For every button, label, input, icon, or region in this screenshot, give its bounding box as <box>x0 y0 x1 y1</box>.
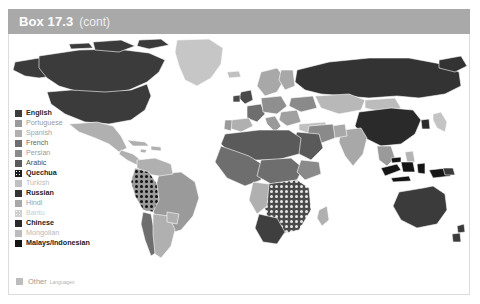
legend-swatch <box>15 190 22 197</box>
box-title: Box 17.3 <box>19 14 73 29</box>
map-legend: EnglishPortugueseSpanishFrenchPersianAra… <box>15 108 135 248</box>
country-indonesia-sulawesi <box>417 163 425 174</box>
legend-other-sublabel: Languages <box>50 279 75 285</box>
legend-swatch <box>15 160 22 167</box>
legend-label: Persian <box>26 149 50 157</box>
legend-swatch <box>15 200 22 207</box>
legend-swatch <box>15 230 22 237</box>
legend-row: Malays/Indonesian <box>15 238 135 248</box>
legend-label: Hindi <box>26 199 42 207</box>
legend-swatch <box>15 140 22 147</box>
legend-row: English <box>15 108 135 118</box>
country-indonesia-borneo <box>401 162 415 172</box>
legend-row: Chinese <box>15 218 135 228</box>
legend-swatch <box>15 110 22 117</box>
legend-row: Mongolian <box>15 228 135 238</box>
legend-label: Arabic <box>26 159 46 167</box>
legend-label: Bantu <box>26 209 45 217</box>
country-ireland <box>233 95 240 102</box>
box-header: Box 17.3 (cont) <box>8 9 470 34</box>
legend-swatch <box>15 120 22 127</box>
country-hispaniola <box>151 146 161 151</box>
legend-other-row: Other Languages <box>16 277 75 286</box>
country-korea <box>421 119 430 129</box>
country-portugal <box>224 120 232 131</box>
legend-row: Bantu <box>15 208 135 218</box>
legend-label: Turkish <box>26 179 49 187</box>
legend-swatch <box>15 170 22 177</box>
legend-other-swatch <box>16 278 23 285</box>
legend-row: Hindi <box>15 198 135 208</box>
legend-swatch <box>15 150 22 157</box>
legend-label: Mongolian <box>26 229 59 237</box>
legend-swatch <box>15 130 22 137</box>
country-new-zealand-s <box>452 233 461 242</box>
legend-label: Russian <box>26 189 54 197</box>
legend-row: Turkish <box>15 178 135 188</box>
box-continued-label: (cont) <box>79 15 110 29</box>
legend-row: Spanish <box>15 128 135 138</box>
legend-row: Quechua <box>15 168 135 178</box>
legend-swatch <box>15 220 22 227</box>
box-figure: Box 17.3 (cont) <box>0 0 480 304</box>
box-content-panel: EnglishPortugueseSpanishFrenchPersianAra… <box>8 34 470 295</box>
country-canada-arctic-3 <box>69 43 93 49</box>
country-malaysia <box>391 157 401 163</box>
legend-row: Russian <box>15 188 135 198</box>
legend-label: Chinese <box>26 219 54 227</box>
legend-label: English <box>26 109 52 117</box>
legend-swatch <box>15 210 22 217</box>
legend-other-label: Other <box>28 277 47 286</box>
legend-label: Spanish <box>26 129 52 137</box>
legend-label: Portuguese <box>26 119 63 127</box>
legend-row: French <box>15 138 135 148</box>
legend-row: Portuguese <box>15 118 135 128</box>
legend-label: Quechua <box>26 169 57 177</box>
legend-row: Persian <box>15 148 135 158</box>
country-new-guinea-png <box>443 168 455 175</box>
legend-swatch <box>15 180 22 187</box>
country-iceland <box>227 71 241 78</box>
country-paraguay <box>167 212 179 224</box>
country-russia <box>295 58 461 98</box>
legend-swatch <box>15 240 22 247</box>
country-philippines <box>405 151 415 162</box>
legend-label: French <box>26 139 48 147</box>
legend-label: Malays/Indonesian <box>26 239 90 247</box>
country-new-zealand-n <box>457 224 465 233</box>
legend-row: Arabic <box>15 158 135 168</box>
